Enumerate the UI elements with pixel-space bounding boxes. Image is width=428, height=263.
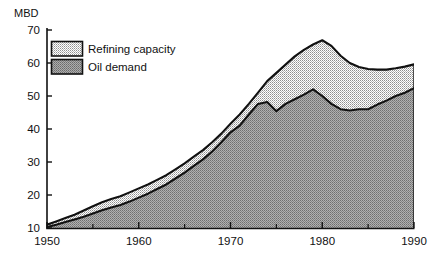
legend-label-refining-capacity: Refining capacity (88, 43, 176, 55)
y-tick-label-50: 50 (27, 90, 40, 102)
x-tick-label-1990: 1990 (401, 235, 427, 247)
legend-item-oil-demand: Oil demand (52, 60, 147, 75)
stacked-area-chart: 10203040506070 19501960197019801990 MBD … (0, 0, 428, 263)
chart-figure: 10203040506070 19501960197019801990 MBD … (0, 0, 428, 263)
y-tick-label-70: 70 (27, 24, 40, 36)
legend-label-oil-demand: Oil demand (88, 61, 147, 73)
y-tick-label-40: 40 (27, 123, 40, 135)
legend-item-refining-capacity: Refining capacity (52, 42, 176, 57)
y-tick-label-20: 20 (27, 189, 40, 201)
y-tick-label-30: 30 (27, 156, 40, 168)
x-tick-label-1980: 1980 (309, 235, 335, 247)
x-tick-label-1970: 1970 (218, 235, 244, 247)
x-tick-label-1960: 1960 (126, 235, 152, 247)
y-axis-unit-label: MBD (14, 7, 39, 19)
y-tick-label-60: 60 (27, 57, 40, 69)
legend-swatch-refining-capacity (52, 42, 83, 57)
y-tick-label-10: 10 (27, 222, 40, 234)
x-tick-label-1950: 1950 (34, 235, 60, 247)
legend-swatch-oil-demand (52, 60, 83, 75)
